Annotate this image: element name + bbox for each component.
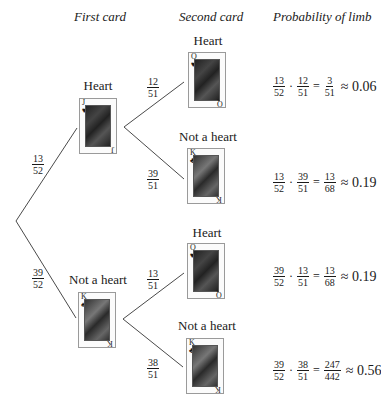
card-rank-inverted: K: [216, 195, 222, 203]
header-second-card: Second card: [179, 9, 243, 25]
face-card-art: [193, 155, 219, 197]
card-queen-of-hearts-2: Q♥ Q: [187, 243, 225, 299]
prob-first-heart: 1352: [32, 153, 44, 176]
prob-first-not-heart: 3952: [32, 267, 44, 290]
card-rank-inverted: J: [111, 145, 114, 153]
second-heart-label-2: Heart: [173, 225, 241, 241]
prob-second-1: 1251: [147, 76, 159, 99]
limb-probability-4: 3952 · 3851 = 247442 ≈ 0.56: [273, 359, 381, 382]
second-not-heart-label-2: Not a heart: [165, 318, 249, 334]
second-heart-label-1: Heart: [174, 33, 242, 49]
card-rank-inverted: Q: [216, 290, 222, 298]
card-jack-of-hearts: J♥ J: [79, 98, 117, 154]
approx-value: ≈ 0.56: [346, 363, 381, 379]
header-probability: Probability of limb: [273, 9, 371, 25]
second-not-heart-label-1: Not a heart: [166, 129, 250, 145]
face-card-art: [194, 59, 220, 101]
first-not-heart-label: Not a heart: [58, 272, 138, 288]
card-king-of-clubs-2: K♣ K: [186, 338, 224, 394]
limb-probability-3: 3952 · 1351 = 1368 ≈ 0.19: [273, 265, 376, 288]
branch-root-not-heart: [16, 221, 76, 318]
prob-second-2: 3951: [147, 168, 159, 191]
card-queen-of-hearts-1: Q♥ Q: [188, 52, 226, 108]
limb-probability-2: 1352 · 3951 = 1368 ≈ 0.19: [273, 171, 376, 194]
face-card-art: [193, 250, 219, 292]
card-king-of-clubs-1: K♣ K: [187, 148, 225, 204]
prob-second-3: 1351: [147, 268, 159, 291]
card-rank-inverted: K: [107, 339, 113, 347]
face-card-art: [85, 105, 111, 147]
card-rank-inverted: K: [215, 385, 221, 393]
approx-value: ≈ 0.19: [341, 175, 377, 191]
approx-value: ≈ 0.06: [341, 79, 377, 95]
card-king-of-spades: K♠ K: [78, 292, 116, 348]
face-card-art: [192, 345, 218, 387]
header-first-card: First card: [74, 9, 126, 25]
prob-second-4: 3851: [147, 357, 159, 380]
first-heart-label: Heart: [64, 78, 132, 94]
face-card-art: [84, 299, 110, 341]
branch-root-heart: [16, 128, 77, 221]
card-rank-inverted: Q: [217, 99, 223, 107]
approx-value: ≈ 0.19: [341, 269, 377, 285]
limb-probability-1: 1352 · 1251 = 351 ≈ 0.06: [273, 75, 376, 98]
